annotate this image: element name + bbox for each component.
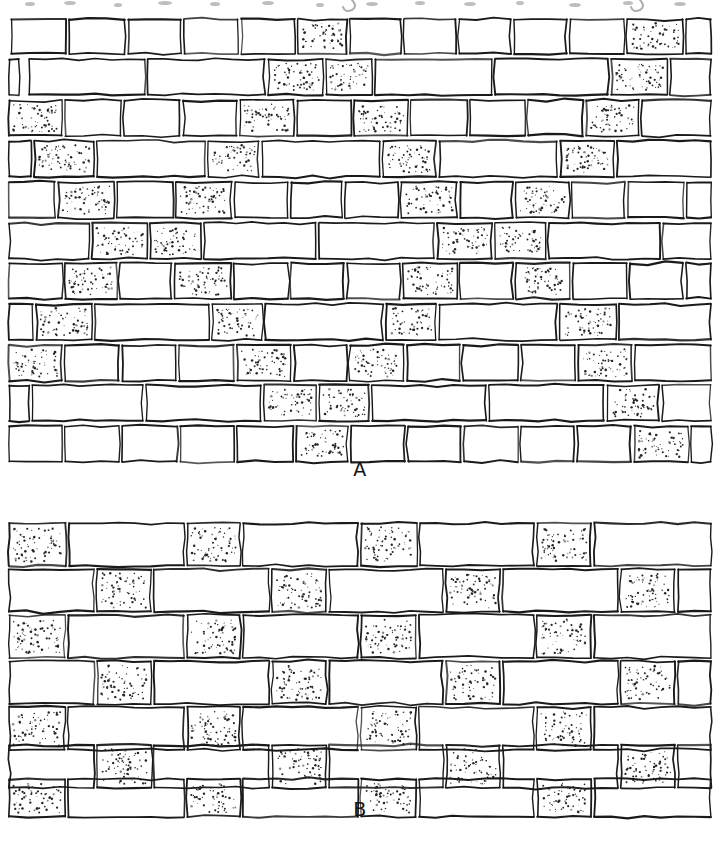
brick-course: [9, 568, 711, 614]
brick-course: [8, 99, 711, 138]
panel-a-drawing: [0, 0, 720, 500]
brick-course: [9, 659, 711, 705]
brick-course: [8, 344, 711, 383]
brick-course: [9, 261, 711, 300]
brick-course: [8, 303, 711, 342]
panel-b-wall: [0, 500, 720, 842]
brick-course: [9, 613, 711, 659]
panel-a-wall: [0, 0, 720, 500]
brick-bond-figure: A B: [0, 0, 720, 842]
brick-course: [8, 522, 712, 567]
brick-course: [9, 181, 712, 219]
brick-course: [9, 384, 711, 422]
brick-course: [9, 58, 711, 96]
brick-course: [9, 139, 711, 178]
brick-course: [9, 222, 711, 261]
panel-a-label: A: [0, 458, 720, 480]
panel-b-drawing: [0, 500, 720, 842]
panel-b-label: B: [0, 798, 720, 820]
brick-course: [11, 18, 711, 56]
